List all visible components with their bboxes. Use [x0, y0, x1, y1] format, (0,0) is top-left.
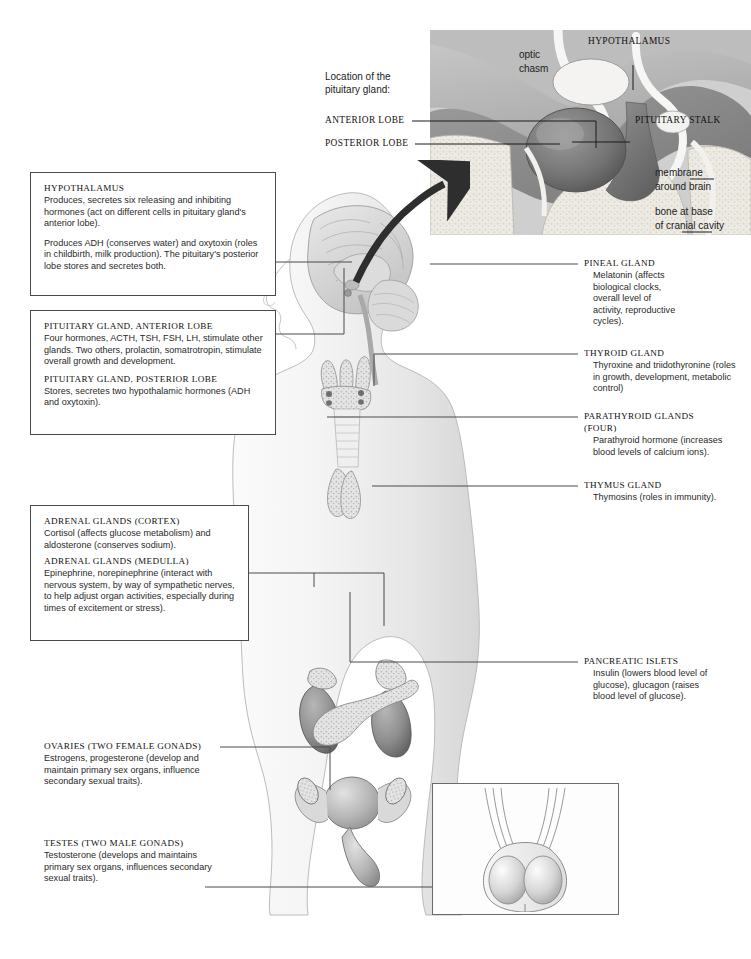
- callout-adrenal-medulla-heading: ADRENAL GLANDS (MEDULLA): [44, 556, 236, 566]
- callout-thyroid-para: Thyroxine and triidothyronine (roles in …: [584, 360, 745, 395]
- callout-adrenal-cortex-heading: ADRENAL GLANDS (CORTEX): [44, 516, 236, 526]
- callout-pituitary-posterior-heading: PITUITARY GLAND, POSTERIOR LOBE: [44, 374, 263, 384]
- callout-testes: TESTES (TWO MALE GONADS) Testosterone (d…: [44, 838, 224, 885]
- label-hypothalamus-inset: HYPOTHALAMUS: [588, 36, 670, 46]
- callout-pineal: PINEAL GLAND Melatonin (affects biologic…: [584, 258, 744, 328]
- callout-pituitary-posterior-para: Stores, secretes two hypothalamic hormon…: [44, 386, 263, 409]
- callout-pituitary-anterior-heading: PITUITARY GLAND, ANTERIOR LOBE: [44, 321, 263, 331]
- callout-adrenal: ADRENAL GLANDS (CORTEX) Cortisol (affect…: [30, 505, 249, 641]
- callout-pancreas-para: Insulin (lowers blood level of glucose),…: [584, 668, 715, 703]
- testes-inset: [432, 783, 619, 915]
- callout-pituitary-anterior-para: Four hormones, ACTH, TSH, FSH, LH, stimu…: [44, 333, 263, 368]
- inset-intro-line1: Location of the: [325, 71, 391, 82]
- label-anterior-lobe: ANTERIOR LOBE: [325, 115, 404, 125]
- callout-pituitary: PITUITARY GLAND, ANTERIOR LOBE Four horm…: [30, 310, 276, 435]
- callout-pineal-heading: PINEAL GLAND: [584, 258, 744, 268]
- callout-thyroid: THYROID GLAND Thyroxine and triidothyron…: [584, 348, 749, 395]
- callout-thymus: THYMUS GLAND Thymosins (roles in immunit…: [584, 480, 749, 504]
- callout-hypothalamus: HYPOTHALAMUS Produces, secretes six rele…: [30, 172, 276, 296]
- membrane-line1: membrane: [655, 167, 703, 178]
- callout-hypothalamus-heading: HYPOTHALAMUS: [44, 183, 263, 193]
- callout-thymus-heading: THYMUS GLAND: [584, 480, 749, 490]
- callout-hypothalamus-para2: Produces ADH (conserves water) and oxyto…: [44, 238, 263, 273]
- callout-pancreatic-islets: PANCREATIC ISLETS Insulin (lowers blood …: [584, 656, 749, 703]
- label-posterior-lobe: POSTERIOR LOBE: [325, 138, 408, 148]
- callout-adrenal-medulla-para: Epinephrine, norepinephrine (interact wi…: [44, 568, 236, 614]
- optic-chasm-line1: optic: [519, 49, 540, 60]
- callout-parathyroid-para: Parathyroid hormone (increases blood lev…: [584, 435, 723, 458]
- callout-pineal-para: Melatonin (affects biological clocks, ov…: [584, 270, 677, 328]
- bone-line1: bone at base: [655, 206, 713, 217]
- callout-thymus-para: Thymosins (roles in immunity).: [584, 492, 751, 504]
- callout-ovaries: OVARIES (TWO FEMALE GONADS) Estrogens, p…: [44, 741, 224, 788]
- testes-illustration: [433, 784, 616, 912]
- callout-parathyroid-heading: PARATHYROID GLANDS: [584, 411, 749, 421]
- label-pituitary-stalk: PITUITARY STALK: [635, 115, 721, 125]
- callout-parathyroid: PARATHYROID GLANDS (FOUR) Parathyroid ho…: [584, 411, 749, 458]
- callout-thyroid-heading: THYROID GLAND: [584, 348, 749, 358]
- inset-intro-line2: pituitary gland:: [325, 84, 390, 95]
- bone-line2: of cranial cavity: [655, 220, 724, 231]
- membrane-line2: around brain: [655, 181, 711, 192]
- label-optic-chasm: optic chasm: [519, 48, 548, 76]
- callout-hypothalamus-para1: Produces, secretes six releasing and inh…: [44, 195, 263, 230]
- callout-adrenal-cortex-para: Cortisol (affects glucose metabolism) an…: [44, 528, 236, 551]
- callout-testes-para: Testosterone (develops and maintains pri…: [44, 850, 224, 885]
- callout-parathyroid-heading2: (FOUR): [584, 423, 749, 433]
- callout-pancreas-heading: PANCREATIC ISLETS: [584, 656, 749, 666]
- optic-chasm-line2: chasm: [519, 63, 548, 74]
- label-membrane-around-brain: membrane around brain: [655, 166, 711, 194]
- callout-testes-heading: TESTES (TWO MALE GONADS): [44, 838, 224, 848]
- callout-ovaries-para: Estrogens, progesterone (develop and mai…: [44, 753, 224, 788]
- inset-intro-text: Location of the pituitary gland:: [325, 70, 391, 96]
- callout-ovaries-heading: OVARIES (TWO FEMALE GONADS): [44, 741, 224, 751]
- label-bone-cranial-cavity: bone at base of cranial cavity: [655, 205, 724, 233]
- adrenal-pancreas-art: [300, 660, 419, 757]
